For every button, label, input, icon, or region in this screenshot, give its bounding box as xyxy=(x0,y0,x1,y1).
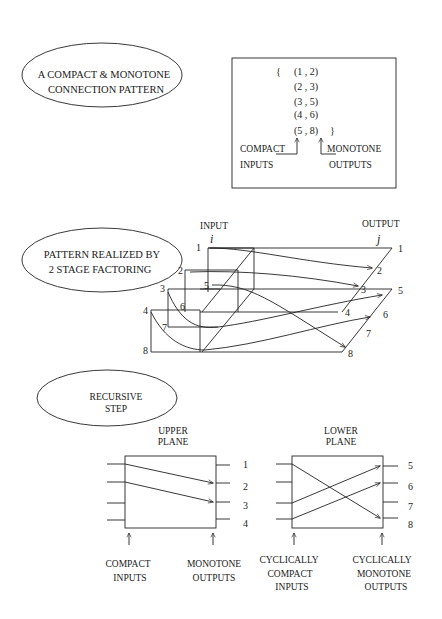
input-5: 5 xyxy=(204,280,209,291)
lower-connection-5-to-8 xyxy=(292,464,380,518)
inputs-label: INPUTS xyxy=(240,160,273,170)
lower-plane-title-1: LOWER xyxy=(324,426,358,436)
inputs-label: INPUTS xyxy=(275,582,308,592)
cyclically-label: CYCLICALLY xyxy=(259,555,318,565)
stage-diagonal-1 xyxy=(202,248,254,312)
lower-plane-title-2: PLANE xyxy=(326,437,357,447)
output-8: 8 xyxy=(348,348,353,359)
ellipse-label-line1: RECURSIVE xyxy=(90,392,143,402)
lower-plane: LOWER PLANE 5 6 7 8 CYCLICALLY COMPACT I… xyxy=(259,426,413,592)
cyclically-label: CYCLICALLY xyxy=(352,555,411,565)
input-4: 4 xyxy=(143,305,148,316)
output-2: 2 xyxy=(377,265,382,276)
upper-output-1: 1 xyxy=(243,459,248,470)
output-1: 1 xyxy=(398,243,403,254)
input-8: 8 xyxy=(143,345,148,356)
lower-output-7: 7 xyxy=(408,501,413,512)
output-diagonal-upper xyxy=(342,248,392,312)
input-7: 7 xyxy=(162,322,167,333)
upper-plane-title-1: UPPER xyxy=(158,426,188,436)
compact-label: COMPACT xyxy=(105,559,150,569)
upper-connection-2 xyxy=(125,482,213,502)
plane-box-3 xyxy=(168,289,220,327)
section-recursive-step: RECURSIVE STEP UPPER PLANE 1 2 3 4 COMPA… xyxy=(37,370,413,592)
lower-output-8: 8 xyxy=(408,519,413,530)
output-header: OUTPUT xyxy=(362,219,400,229)
output-7: 7 xyxy=(366,328,371,339)
monotone-label: MONOTONE xyxy=(357,569,411,579)
stage-diagonal-2 xyxy=(202,289,254,352)
lower-output-5: 5 xyxy=(408,460,413,471)
outputs-label: OUTPUTS xyxy=(365,582,408,592)
output-var: j xyxy=(375,232,381,246)
upper-output-3: 3 xyxy=(243,500,248,511)
pair-1: (1 , 2) xyxy=(294,66,318,78)
lower-connection-3-to-5 xyxy=(292,466,380,503)
monotone-label: MONOTONE xyxy=(327,144,381,154)
set-close-brace: } xyxy=(330,125,335,136)
compact-label: COMPACT xyxy=(267,569,312,579)
section-compact-monotone: A COMPACT & MONOTONE CONNECTION PATTERN … xyxy=(22,43,396,188)
input-2: 2 xyxy=(178,265,183,276)
output-4: 4 xyxy=(345,307,350,318)
input-1: 1 xyxy=(196,242,201,253)
ellipse-label-line1: PATTERN REALIZED BY xyxy=(44,249,161,260)
input-6: 6 xyxy=(180,301,185,312)
connection-4-to-6 xyxy=(151,312,370,350)
output-5: 5 xyxy=(398,285,403,296)
upper-connection-1 xyxy=(125,464,213,483)
inputs-label: INPUTS xyxy=(113,573,146,583)
lower-connection-4-to-6 xyxy=(292,483,380,519)
input-header: INPUT xyxy=(200,221,228,231)
lower-output-6: 6 xyxy=(408,481,413,492)
monotone-label: MONOTONE xyxy=(187,559,241,569)
input-3: 3 xyxy=(160,283,165,294)
output-6: 6 xyxy=(383,309,388,320)
input-var: i xyxy=(210,232,213,246)
connection-2-to-3 xyxy=(190,272,358,286)
title-ellipse xyxy=(22,228,182,292)
plane-box-4 xyxy=(151,310,200,352)
upper-output-4: 4 xyxy=(243,518,248,529)
compact-label: COMPACT xyxy=(240,144,285,154)
pair-4: (4 , 6) xyxy=(294,109,318,121)
pair-2: (2 , 3) xyxy=(294,81,318,93)
output-3: 3 xyxy=(361,284,366,295)
outputs-label: OUTPUTS xyxy=(193,573,236,583)
outputs-label: OUTPUTS xyxy=(329,160,372,170)
upper-output-2: 2 xyxy=(243,481,248,492)
connection-pattern-figure: A COMPACT & MONOTONE CONNECTION PATTERN … xyxy=(0,0,442,619)
upper-plane: UPPER PLANE 1 2 3 4 COMPACT INPUTS MONOT… xyxy=(105,426,248,583)
ellipse-label-line1: A COMPACT & MONOTONE xyxy=(38,69,171,80)
connection-1-to-2 xyxy=(210,248,372,268)
ellipse-label-line2: CONNECTION PATTERN xyxy=(48,84,164,95)
pair-5: (5 , 8) xyxy=(294,125,318,137)
ellipse-label-line2: 2 STAGE FACTORING xyxy=(49,264,152,275)
pair-3: (3 , 5) xyxy=(294,96,318,108)
plane-box-2 xyxy=(185,270,238,312)
ellipse-label-line2: STEP xyxy=(105,404,127,414)
section-two-stage-factoring: PATTERN REALIZED BY 2 STAGE FACTORING IN… xyxy=(22,219,403,359)
upper-plane-title-2: PLANE xyxy=(158,437,189,447)
set-open-brace: { xyxy=(276,66,281,77)
